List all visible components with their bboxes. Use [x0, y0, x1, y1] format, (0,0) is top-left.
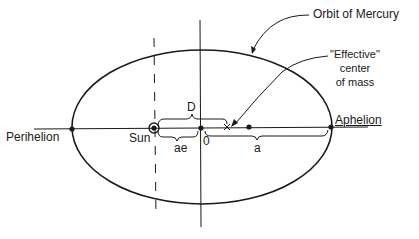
distance-ae-label: ae: [174, 142, 187, 154]
perihelion-label: Perihelion: [6, 131, 59, 143]
orbit-of-mercury-label: Orbit of Mercury: [313, 8, 399, 20]
aphelion-point-icon: [328, 124, 333, 129]
distance-D-label: D: [187, 101, 196, 113]
brace-D: [158, 114, 227, 126]
sun-symbol-core-icon: [151, 125, 156, 130]
effective-center-label-line1: "Effective": [325, 49, 385, 60]
brace-ae: [158, 131, 198, 141]
center-vertical-line: [200, 20, 201, 227]
effective-center-x-icon: [224, 124, 230, 130]
orbit-leader-line: [253, 15, 309, 50]
origin-label: 0: [203, 135, 210, 147]
aphelion-label: Aphelion: [335, 114, 382, 126]
effective-center-label-line2: center: [325, 63, 385, 74]
semi-major-a-label: a: [254, 142, 261, 154]
brace-a: [205, 130, 328, 140]
center-leader-arrowhead-icon: [231, 119, 238, 127]
perihelion-point-icon: [69, 126, 74, 131]
center-point-icon: [198, 125, 203, 130]
effective-center-label-line3: of mass: [325, 77, 385, 88]
orbit-leader-arrowhead-icon: [251, 46, 256, 54]
sun-label: Sun: [129, 132, 150, 144]
mercury-orbit-diagram: Orbit of Mercury "Effective" center of m…: [0, 0, 419, 239]
second-focus-point-icon: [246, 124, 251, 129]
